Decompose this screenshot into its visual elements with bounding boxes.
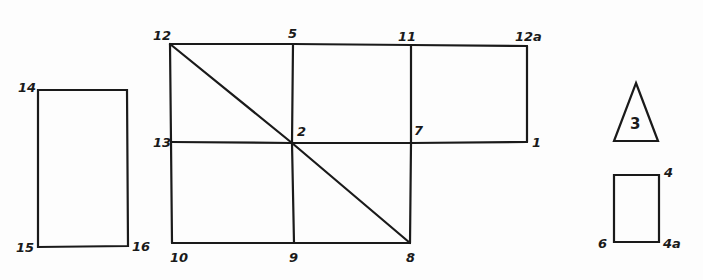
point-label-8: 8 bbox=[406, 250, 415, 265]
edge-13-10 bbox=[171, 142, 172, 243]
edge-2-8 bbox=[292, 143, 410, 243]
diagram-canvas: 1251112a1327110981415163464a bbox=[0, 0, 703, 280]
point-label-7: 7 bbox=[414, 123, 424, 138]
edge-2-9 bbox=[292, 143, 294, 243]
point-label-14: 14 bbox=[18, 80, 36, 95]
edge-7-8 bbox=[410, 143, 411, 243]
left-rectangle bbox=[38, 90, 128, 247]
edge-11-12a bbox=[411, 45, 527, 46]
diagram-svg: 1251112a1327110981415163464a bbox=[0, 0, 703, 280]
point-label-10: 10 bbox=[170, 250, 188, 265]
point-label-16: 16 bbox=[132, 239, 150, 254]
point-label-5: 5 bbox=[288, 26, 297, 41]
small-rectangle bbox=[614, 175, 659, 242]
point-label-3: 3 bbox=[630, 115, 640, 133]
point-label-11: 11 bbox=[398, 29, 416, 44]
point-label-12a: 12a bbox=[515, 29, 542, 44]
point-label-12: 12 bbox=[153, 28, 171, 43]
point-label-2: 2 bbox=[297, 124, 306, 139]
edge-5-11 bbox=[293, 44, 411, 45]
point-label-9: 9 bbox=[289, 250, 298, 265]
point-label-4a: 4a bbox=[662, 236, 681, 251]
edge-7-1 bbox=[411, 142, 527, 143]
edge-13-2 bbox=[171, 142, 292, 143]
main-grid-edges bbox=[170, 44, 527, 243]
point-label-4: 4 bbox=[663, 165, 673, 180]
edge-12-2 bbox=[170, 44, 292, 143]
point-label-13: 13 bbox=[153, 135, 171, 150]
point-label-6: 6 bbox=[598, 236, 607, 251]
edge-5-2 bbox=[292, 44, 293, 143]
point-labels: 1251112a1327110981415163464a bbox=[16, 26, 681, 265]
edge-12-13 bbox=[170, 44, 171, 142]
point-label-15: 15 bbox=[16, 240, 34, 255]
point-label-1: 1 bbox=[532, 135, 541, 150]
